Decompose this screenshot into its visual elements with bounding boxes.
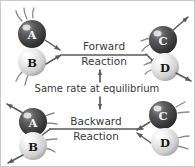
backward-reaction-label-line2: Reaction: [73, 130, 119, 142]
sphere-d-letter: D: [160, 61, 170, 75]
sphere-d-product: D: [151, 53, 179, 81]
sphere-a-product-backward: A: [19, 108, 47, 136]
equilibrium-diagram: A B Forward Reaction C D: [0, 0, 195, 167]
sphere-d-reactant-backward: D: [151, 128, 179, 156]
sphere-c-letter-bottom: C: [158, 109, 167, 123]
backward-reaction-label-line1: Backward: [70, 115, 121, 127]
forward-reaction-label-line2: Reaction: [81, 55, 127, 67]
sphere-b-reactant: B: [18, 48, 46, 76]
sphere-a-letter: A: [27, 28, 38, 42]
motion-lines-c-bottom: [176, 102, 189, 113]
sphere-b-letter: B: [27, 56, 37, 70]
sphere-a-reactant: A: [18, 20, 46, 48]
sphere-a-letter-bottom: A: [28, 116, 39, 130]
equilibrium-label: Same rate at equilibrium: [35, 83, 160, 94]
motion-lines-a-top: [16, 8, 34, 21]
forward-reaction-label-line1: Forward: [83, 40, 125, 52]
sphere-b-product-backward: B: [19, 132, 47, 160]
product-escape-arrows-bottom: [7, 104, 23, 163]
sphere-d-letter-bottom: D: [160, 136, 170, 150]
sphere-c-reactant-backward: C: [149, 101, 177, 129]
sphere-c-letter: C: [158, 34, 167, 48]
backward-inbound-arrows: [137, 122, 151, 143]
forward-inbound-arrows: [45, 40, 61, 64]
sphere-b-letter-bottom: B: [28, 140, 38, 154]
